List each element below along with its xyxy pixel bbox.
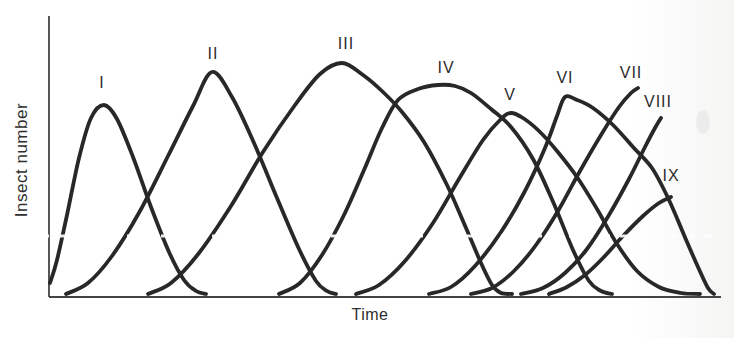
curve-IV bbox=[279, 85, 612, 294]
curve-label-III: III bbox=[338, 35, 354, 52]
succession-chart: IIIIIIIVVVIVIIVIIIIX bbox=[0, 0, 734, 338]
y-axis-label: Insect number bbox=[12, 60, 32, 260]
curve-label-IV: IV bbox=[437, 59, 454, 76]
curve-label-VI: VI bbox=[556, 69, 573, 86]
scan-artifact-smudge bbox=[696, 110, 710, 134]
curve-label-VIII: VIII bbox=[644, 93, 672, 110]
x-axis-label: Time bbox=[310, 306, 430, 324]
curve-label-V: V bbox=[504, 86, 516, 103]
curve-label-IX: IX bbox=[662, 167, 679, 184]
curve-label-II: II bbox=[208, 45, 219, 62]
curve-I bbox=[50, 105, 206, 294]
curve-label-I: I bbox=[99, 74, 104, 91]
insect-succession-figure: IIIIIIIVVVIVIIVIIIIX Insect number Time bbox=[0, 0, 734, 338]
curve-label-VII: VII bbox=[620, 64, 643, 81]
